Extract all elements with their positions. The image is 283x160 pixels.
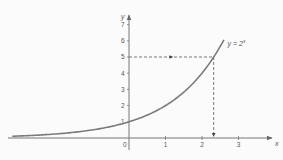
y-tick-label: 6 xyxy=(121,37,125,44)
y-tick-label: 3 xyxy=(121,86,125,93)
y-ticks: 1234567 xyxy=(121,21,129,125)
guide-lines xyxy=(129,55,215,137)
right-arrow-icon xyxy=(169,55,173,59)
origin-label: 0 xyxy=(123,141,127,148)
y-axis-label: y xyxy=(120,13,125,21)
x-tick-label: 1 xyxy=(164,141,168,148)
curve-label: y = 2x xyxy=(227,38,246,48)
x-axis-label: x xyxy=(274,140,279,147)
x-tick-label: 2 xyxy=(200,141,204,148)
x-tick-label: 3 xyxy=(237,141,241,148)
down-arrow-icon xyxy=(212,133,216,137)
y-tick-label: 4 xyxy=(121,70,125,77)
y-tick-label: 5 xyxy=(121,53,125,60)
y-tick-label: 2 xyxy=(121,102,125,109)
axes: x y 0 xyxy=(8,13,279,150)
exponential-graph: x y 0 123 1234567 y = 2x xyxy=(0,0,283,160)
curve-y-equals-2-to-x xyxy=(12,40,224,136)
y-tick-label: 7 xyxy=(121,21,125,28)
